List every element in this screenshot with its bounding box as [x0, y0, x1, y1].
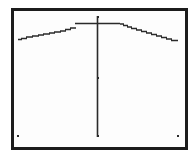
- marker-point-left: [17, 135, 19, 137]
- y-axis-tick-top: [97, 16, 99, 18]
- marker-point-right: [177, 135, 179, 137]
- y-axis-tick-bottom: [97, 135, 99, 137]
- graph-plot-area: [0, 0, 194, 150]
- y-axis-tick-middle: [97, 77, 99, 79]
